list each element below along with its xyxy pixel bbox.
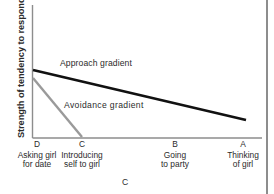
x-tick-b-desc: Going to party — [137, 151, 213, 170]
x-tick-a-desc: Thinking of girl — [205, 151, 274, 170]
x-axis-label: C — [105, 177, 145, 187]
approach-gradient-label: Approach gradient — [60, 58, 132, 68]
x-tick-a-key: A — [205, 140, 274, 150]
chart-figure: Strength of tendency to respond Approach… — [0, 0, 274, 194]
approach-gradient-line — [33, 70, 246, 120]
avoidance-gradient-label: Avoidance gradient — [64, 100, 144, 110]
x-tick-c-desc: Introducing self to girl — [44, 151, 120, 170]
x-tick-c: C Introducing self to girl — [44, 140, 120, 170]
x-tick-b: B Going to party — [137, 140, 213, 170]
y-axis-label: Strength of tendency to respond — [16, 0, 26, 138]
x-tick-a: A Thinking of girl — [205, 140, 274, 170]
x-tick-c-key: C — [44, 140, 120, 150]
x-tick-b-key: B — [137, 140, 213, 150]
